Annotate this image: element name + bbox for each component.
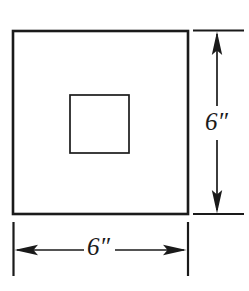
- width-dimension-label: 6″: [84, 234, 113, 259]
- inner-square: [70, 95, 129, 153]
- figure-canvas: [0, 0, 249, 291]
- height-dimension-label: 6″: [203, 106, 230, 137]
- outer-square: [13, 31, 188, 214]
- geometry-figure: 6″ 6″: [0, 0, 249, 291]
